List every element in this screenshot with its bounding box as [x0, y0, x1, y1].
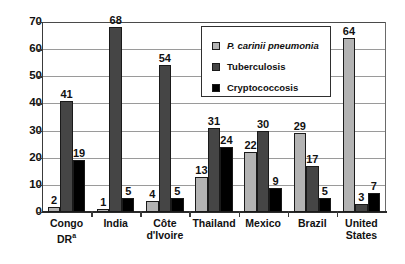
bar: 68: [109, 27, 122, 212]
x-axis-label: Brazil: [288, 218, 337, 230]
bar-chart: 010203040506070 Congo DRaIndiaCôted'Ivoi…: [0, 0, 405, 264]
bar: 29: [294, 133, 307, 212]
bar: 13: [195, 177, 208, 212]
bar-value-label: 5: [322, 186, 328, 197]
bar: 19: [73, 160, 86, 212]
bar-value-label: 29: [294, 121, 306, 132]
bar-group: 24119: [42, 22, 91, 212]
x-axis-label: Congo DRa: [42, 218, 91, 245]
bar-value-label: 5: [174, 186, 180, 197]
bar-value-label: 41: [60, 89, 72, 100]
bar-value-label: 30: [257, 119, 269, 130]
bar: 3: [355, 204, 368, 212]
bar: 30: [257, 131, 270, 212]
bar-group: 1685: [91, 22, 140, 212]
bar-value-label: 4: [149, 189, 155, 200]
bar-value-label: 22: [245, 140, 257, 151]
bar-group: 22309: [239, 22, 288, 212]
bar: 31: [208, 128, 221, 212]
bar-value-label: 7: [371, 181, 377, 192]
y-axis: 010203040506070: [0, 0, 42, 264]
bar: 1: [97, 209, 110, 212]
bar-value-label: 54: [159, 53, 171, 64]
bar: 5: [171, 198, 184, 212]
bar-value-label: 17: [306, 154, 318, 165]
bar: 24: [220, 147, 233, 212]
bar: 7: [368, 193, 381, 212]
bar: 5: [122, 198, 135, 212]
bar: 5: [319, 198, 332, 212]
bar: 54: [159, 65, 172, 212]
bar: 4: [146, 201, 159, 212]
bar-value-label: 5: [125, 186, 131, 197]
bar-value-label: 3: [358, 192, 364, 203]
bar: 9: [269, 188, 282, 212]
bar-group: 29175: [288, 22, 337, 212]
x-axis-label: UnitedStates: [337, 218, 386, 241]
bar: 41: [60, 101, 73, 212]
bar-group: 4545: [140, 22, 189, 212]
bar-value-label: 19: [73, 148, 85, 159]
bar: 22: [244, 152, 257, 212]
x-axis-label: Thailand: [189, 218, 238, 230]
bar-value-label: 68: [110, 15, 122, 26]
bar-group: 133124: [189, 22, 238, 212]
bar: 17: [306, 166, 319, 212]
bar-value-label: 1: [100, 197, 106, 208]
x-axis-label: Mexico: [239, 218, 288, 230]
bar-value-label: 64: [343, 26, 355, 37]
bar: 2: [48, 207, 61, 212]
bar-value-label: 13: [195, 165, 207, 176]
x-axis-label: Côted'Ivoire: [140, 218, 189, 241]
bar-group: 6437: [337, 22, 386, 212]
x-axis-label: India: [91, 218, 140, 230]
bar: 64: [343, 38, 356, 212]
bar-value-label: 2: [51, 195, 57, 206]
bar-value-label: 9: [273, 176, 279, 187]
bar-value-label: 31: [208, 116, 220, 127]
bar-value-label: 24: [220, 135, 232, 146]
